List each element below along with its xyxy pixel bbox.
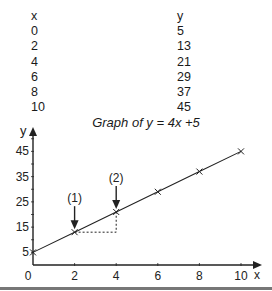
x-tick-label: 4 — [113, 269, 120, 283]
x-axis-label: x — [254, 268, 260, 282]
annotation-label: (2) — [109, 171, 124, 185]
y-tick-label: 45 — [16, 144, 30, 158]
data-point-marker — [72, 229, 78, 235]
y-tick-label: 5 — [22, 245, 29, 259]
x-tick-label: 10 — [234, 269, 248, 283]
y-axis-label: y — [20, 123, 27, 138]
data-point-marker — [196, 169, 202, 175]
y-tick-label: 15 — [16, 220, 30, 234]
x-tick-label: 8 — [196, 269, 203, 283]
x-tick-label: 2 — [71, 269, 78, 283]
arrow-down-icon — [112, 200, 120, 209]
arrow-down-icon — [71, 220, 79, 229]
data-line — [33, 151, 241, 252]
annotation-label: (1) — [67, 191, 82, 205]
divider — [0, 287, 272, 290]
x-tick-label: 6 — [154, 269, 161, 283]
x-tick-label: 0 — [25, 269, 32, 283]
y-tick-label: 35 — [16, 170, 30, 184]
line-chart: yx5152535450246810(1)(2) — [0, 0, 272, 291]
y-axis-arrow-icon — [29, 127, 37, 136]
data-point-marker — [113, 209, 119, 215]
data-point-marker — [155, 189, 161, 195]
y-tick-label: 25 — [16, 195, 30, 209]
data-point-marker — [238, 148, 244, 154]
